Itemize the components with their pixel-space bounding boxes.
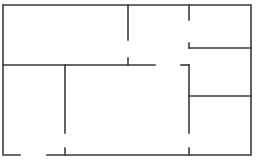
walls-group <box>3 5 251 155</box>
floor-plan <box>0 0 257 163</box>
